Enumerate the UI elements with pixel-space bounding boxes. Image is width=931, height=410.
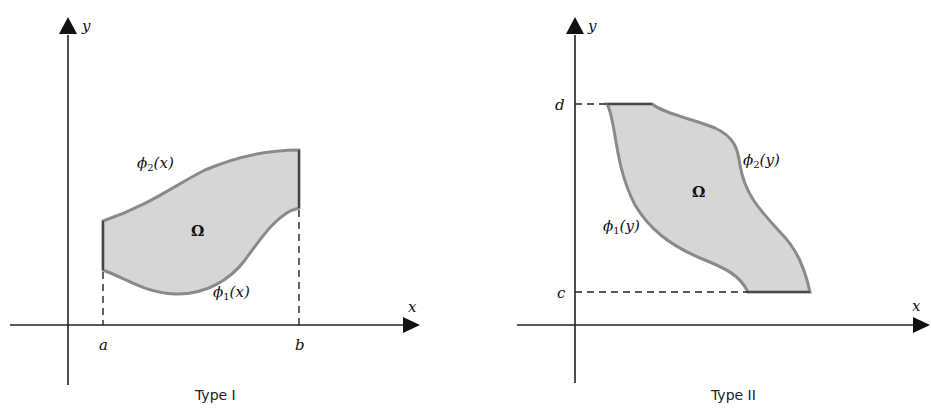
x-axis-arrow-icon <box>913 317 930 333</box>
phi-symbol: ϕ <box>137 154 147 172</box>
phi-argument: (x) <box>230 283 250 301</box>
phi1-x-label: ϕ1(x) <box>213 283 250 302</box>
y-axis-label: y <box>81 17 91 35</box>
type-two-diagram: y x d c Ω ϕ2(y) ϕ1(y) Type II <box>517 17 930 403</box>
x-axis-label: x <box>408 298 417 316</box>
phi-symbol: ϕ <box>213 283 223 301</box>
y-axis-arrow-icon <box>59 17 77 34</box>
type-one-diagram: y x a b Ω ϕ2(x) ϕ1(x) Type I <box>10 17 420 403</box>
phi-argument: (y) <box>760 151 780 169</box>
phi-argument: (y) <box>620 217 640 235</box>
y-axis-label: y <box>587 17 597 35</box>
phi1-y-label: ϕ1(y) <box>603 217 640 236</box>
bound-a-label: a <box>99 336 108 354</box>
x-axis-arrow-icon <box>403 317 420 333</box>
type-two-region <box>607 104 810 292</box>
x-axis-label: x <box>912 297 921 315</box>
caption-type-two: Type II <box>710 387 756 403</box>
y-axis-arrow-icon <box>566 17 584 34</box>
bound-d-label: d <box>555 96 565 114</box>
phi-argument: (x) <box>154 154 174 172</box>
phi2-x-label: ϕ2(x) <box>137 154 174 173</box>
bound-b-label: b <box>295 336 305 354</box>
caption-type-one: Type I <box>194 387 236 403</box>
region-omega-label: Ω <box>692 183 705 201</box>
phi2-y-label: ϕ2(y) <box>743 151 780 170</box>
phi-symbol: ϕ <box>603 217 613 235</box>
bound-c-label: c <box>557 284 566 302</box>
phi-symbol: ϕ <box>743 151 753 169</box>
region-omega-label: Ω <box>191 222 204 240</box>
diagram-canvas: y x a b Ω ϕ2(x) ϕ1(x) Type I y x d c Ω ϕ… <box>0 0 931 410</box>
